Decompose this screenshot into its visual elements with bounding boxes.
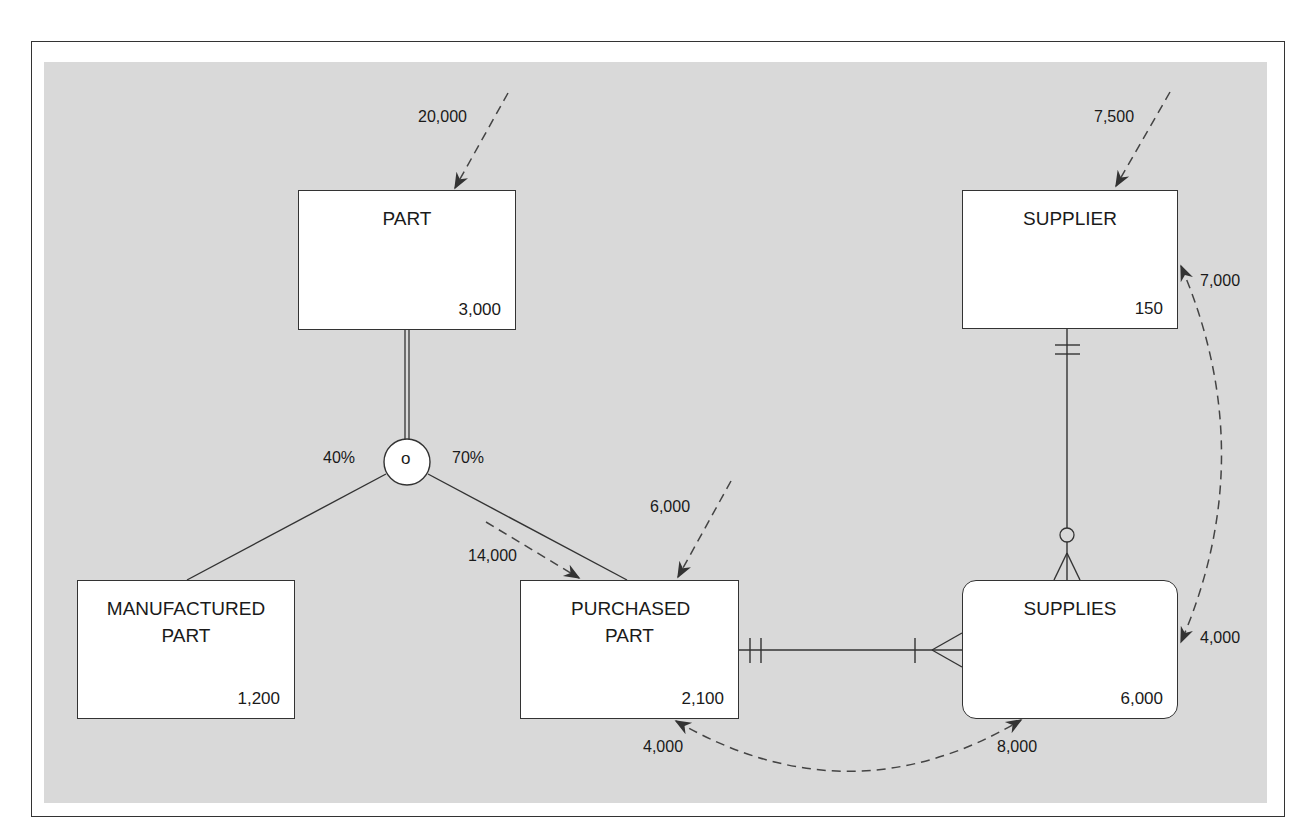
label-supplies-from-purchased: 8,000 [997,738,1037,756]
label-supplier-from-supplies: 7,000 [1200,272,1240,290]
entity-name: SUPPLIES [963,595,1177,622]
subtype-line-purchased [428,474,627,580]
access-path-supplier [1116,92,1170,186]
entity-supplier[interactable]: SUPPLIER 150 [962,190,1178,329]
percent-purchased: 70% [452,449,484,467]
access-path-purchased-direct [678,481,731,577]
label-supplier-direct: 7,500 [1094,108,1134,126]
purchased-supplies-relationship [739,633,962,667]
percent-manufactured: 40% [323,449,355,467]
entity-volume: 2,100 [681,689,724,709]
entity-purchased-part[interactable]: PURCHASED PART 2,100 [520,580,739,719]
label-supplies-from-supplier: 4,000 [1200,629,1240,647]
entity-part[interactable]: PART 3,000 [298,190,516,330]
label-purchased-via-part: 14,000 [468,547,517,565]
entity-manufactured-part[interactable]: MANUFACTURED PART 1,200 [77,580,295,719]
entity-supplies[interactable]: SUPPLIES 6,000 [962,580,1178,719]
entity-volume: 6,000 [1120,689,1163,709]
subtype-line-manufactured [187,474,386,580]
supplier-supplies-relationship [1054,329,1080,580]
access-path-supplier-supplies [1181,266,1222,642]
label-purchased-from-supplies: 4,000 [643,738,683,756]
entity-name: SUPPLIER [963,205,1177,232]
specialization-double-line [405,330,409,439]
entity-name: PURCHASED PART [521,595,738,649]
label-purchased-direct: 6,000 [650,498,690,516]
access-path-purchased-supplies [676,720,1021,771]
entity-name: MANUFACTURED PART [78,595,294,649]
entity-name: PART [299,205,515,232]
entity-volume: 3,000 [458,300,501,320]
label-part-direct: 20,000 [418,108,467,126]
entity-volume: 1,200 [237,689,280,709]
entity-volume: 150 [1135,299,1163,319]
overlap-symbol: o [401,449,410,469]
